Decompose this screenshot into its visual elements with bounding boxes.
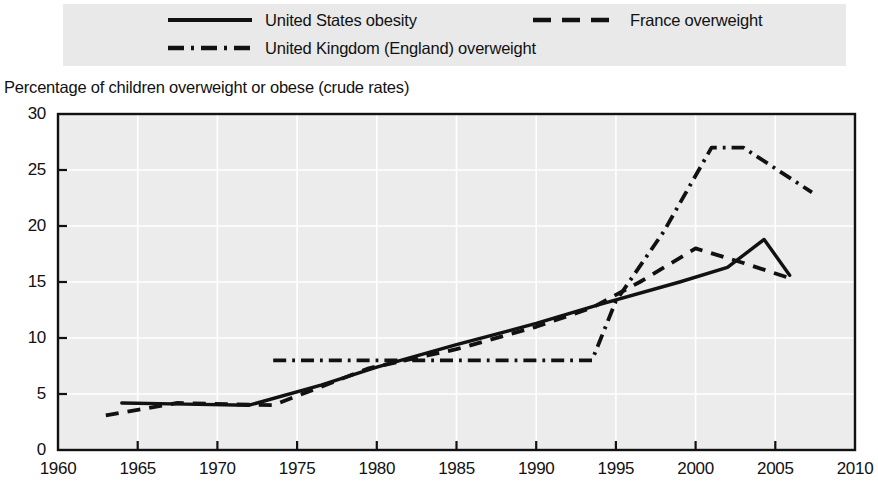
x-axis-tick-label: 1970 (187, 460, 247, 478)
x-axis-tick-label: 1995 (586, 460, 646, 478)
y-axis-tick-label: 30 (6, 105, 46, 123)
y-axis-tick-label: 20 (6, 217, 46, 235)
legend-entry-france: France overweight (533, 11, 762, 29)
legend-label-united-kingdom: United Kingdom (England) overweight (265, 39, 536, 57)
line-chart-svg (0, 100, 870, 495)
y-axis-title: Percentage of children overweight or obe… (4, 78, 409, 96)
x-axis-tick-label: 2000 (666, 460, 726, 478)
legend-label-united-states: United States obesity (265, 11, 417, 29)
x-axis-tick-label: 1975 (267, 460, 327, 478)
x-axis-tick-label: 1990 (506, 460, 566, 478)
chart-legend: United States obesity France overweight … (63, 4, 846, 66)
y-axis-tick-label: 0 (6, 441, 46, 459)
legend-key-solid-icon (168, 12, 252, 28)
y-axis-tick-label: 15 (6, 273, 46, 291)
legend-label-france: France overweight (630, 11, 762, 29)
legend-entry-united-kingdom: United Kingdom (England) overweight (168, 39, 536, 57)
plot-area: 0510152025301960196519701975198019851990… (0, 100, 870, 495)
x-axis-tick-label: 1985 (427, 460, 487, 478)
x-axis-tick-label: 2010 (825, 460, 878, 478)
y-axis-tick-label: 5 (6, 385, 46, 403)
x-axis-tick-label: 1960 (28, 460, 88, 478)
x-axis-tick-label: 1980 (347, 460, 407, 478)
legend-key-dashed-icon (533, 12, 617, 28)
y-axis-tick-label: 25 (6, 161, 46, 179)
x-axis-tick-label: 1965 (108, 460, 168, 478)
legend-entry-united-states: United States obesity (168, 11, 417, 29)
x-axis-tick-label: 2005 (745, 460, 805, 478)
legend-key-dash-dot-icon (168, 40, 252, 56)
y-axis-tick-label: 10 (6, 329, 46, 347)
